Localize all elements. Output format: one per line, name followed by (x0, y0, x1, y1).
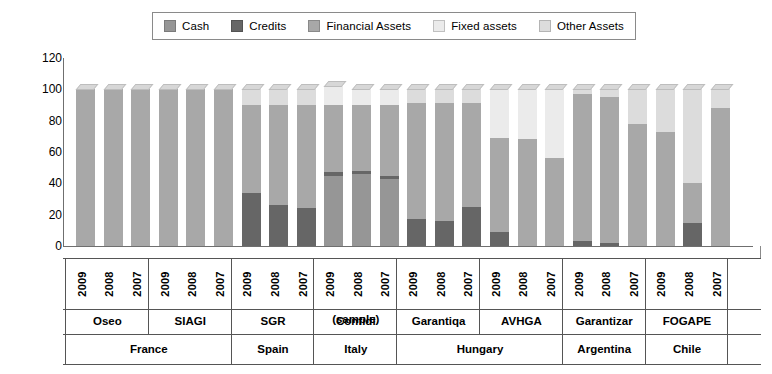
bar-segment (683, 89, 702, 183)
stacked-bar (159, 89, 178, 246)
institution-name: SIAGI (175, 315, 206, 327)
country-separator (396, 258, 397, 364)
country-label: Argentina (563, 334, 646, 364)
bars-container (0, 50, 772, 262)
country-label: Hungary (397, 334, 563, 364)
year-label: 2008 (352, 271, 364, 296)
bar-segment (490, 89, 509, 138)
bar-segment (683, 223, 702, 247)
stacked-bar (683, 89, 702, 246)
bar-segment (518, 89, 537, 139)
bar-segment (380, 89, 399, 105)
year-label: 2007 (462, 271, 474, 296)
year-label-cell: 2009 (320, 259, 339, 309)
bar-segment (407, 219, 426, 246)
institution-name: Garantizar (576, 315, 633, 327)
bar-column (242, 89, 261, 246)
chart-legend: CashCreditsFinancial AssetsFixed assetsO… (152, 12, 636, 40)
stacked-bar (297, 89, 316, 246)
year-label-cell: 2008 (100, 259, 119, 309)
bar-column (352, 89, 371, 246)
year-label: 2007 (296, 271, 308, 296)
stacked-bar (462, 89, 481, 246)
stacked-bar (269, 89, 288, 246)
country-label: France (66, 334, 232, 364)
bar-column (462, 89, 481, 246)
bar-segment (518, 139, 537, 246)
stacked-bar (545, 89, 564, 246)
bar-column (435, 89, 454, 246)
bar-top-face (269, 84, 292, 90)
stacked-bar (186, 89, 205, 246)
axis-label-tables: 2009200820072009200820072009200820072009… (63, 258, 761, 366)
country-separator (65, 258, 66, 364)
year-label-cell: 2009 (486, 259, 505, 309)
bar-segment (269, 105, 288, 205)
bar-top-face (186, 84, 209, 90)
bar-segment (269, 89, 288, 105)
bar-segment (711, 89, 730, 108)
year-label-cell: 2009 (569, 259, 588, 309)
bar-segment (462, 207, 481, 246)
year-label: 2009 (76, 271, 88, 296)
bar-segment (711, 108, 730, 246)
year-label-cell: 2007 (541, 259, 560, 309)
legend-item-label: Fixed assets (451, 20, 517, 32)
bar-top-face (627, 84, 650, 90)
bar-column (490, 89, 509, 246)
bar-top-face (296, 84, 319, 90)
stacked-bar (352, 89, 371, 246)
bar-segment (242, 193, 261, 246)
year-label: 2008 (269, 271, 281, 296)
bar-segment (435, 89, 454, 103)
stacked-bar (435, 89, 454, 246)
bar-segment (324, 176, 343, 247)
year-label-cell: 2007 (376, 259, 395, 309)
year-label: 2007 (628, 271, 640, 296)
year-label-cell: 2007 (210, 259, 229, 309)
country-separator (645, 258, 646, 364)
institution-label: SGR (232, 308, 315, 334)
year-label: 2009 (655, 271, 667, 296)
bar-column (214, 89, 233, 246)
bar-segment (573, 94, 592, 241)
bar-segment (242, 105, 261, 193)
year-label: 2008 (103, 271, 115, 296)
year-label-row: 2009200820072009200820072009200820072009… (63, 258, 761, 310)
year-label-cell: 2008 (348, 259, 367, 309)
bar-segment (104, 89, 123, 246)
bar-segment (573, 241, 592, 246)
institution-name: Garantiqa (412, 315, 466, 327)
year-label: 2007 (710, 271, 722, 296)
institution-name: FOGAPE (663, 315, 712, 327)
bar-column (545, 89, 564, 246)
stacked-bar (242, 89, 261, 246)
bar-top-face (158, 84, 181, 90)
bar-segment (214, 89, 233, 246)
bar-top-face (241, 84, 264, 90)
legend-item-cash: Cash (164, 20, 209, 32)
bar-top-face (517, 84, 540, 90)
year-label-cell: 2008 (431, 259, 450, 309)
year-label: 2009 (158, 271, 170, 296)
bar-segment (656, 132, 675, 246)
stacked-bar (573, 89, 592, 246)
institution-name: SGR (261, 315, 286, 327)
stacked-bar (518, 89, 537, 246)
bar-column (297, 89, 316, 246)
bar-column (711, 89, 730, 246)
bar-segment (545, 158, 564, 246)
year-label-cell: 2007 (293, 259, 312, 309)
bar-top-face (351, 84, 374, 90)
bar-top-face (600, 84, 623, 90)
plot-area: 120100806040200 (0, 50, 772, 262)
stacked-bar (380, 89, 399, 246)
legend-swatch-icon (433, 20, 445, 32)
stacked-bar (407, 89, 426, 246)
label-separator (479, 258, 480, 334)
institution-name-line2: (sample) (314, 310, 397, 328)
bar-segment (628, 89, 647, 123)
label-separator (148, 258, 149, 334)
bar-segment (435, 103, 454, 221)
bar-segment (656, 89, 675, 131)
